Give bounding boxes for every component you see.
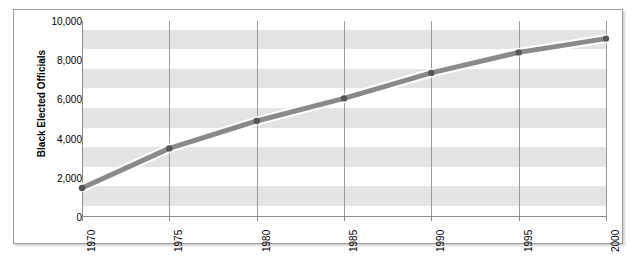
chart-frame: Black Elected Officials 10,0008,0006,000…	[13, 9, 623, 244]
line-series	[82, 21, 606, 217]
x-axis-tick-mark	[431, 217, 432, 221]
data-point-marker	[603, 35, 609, 41]
y-axis-tick-label: 0	[28, 212, 82, 223]
line-halo	[82, 39, 606, 188]
x-axis-tick-mark	[169, 217, 170, 221]
x-axis-tick-label: 1975	[173, 230, 184, 252]
x-axis-tick-mark	[82, 217, 83, 221]
vertical-gridline	[606, 21, 607, 217]
y-axis-tick-label: 8,000	[28, 55, 82, 66]
data-point-marker	[166, 145, 172, 151]
data-point-marker	[516, 49, 522, 55]
y-axis-tick-label: 6,000	[28, 94, 82, 105]
x-axis-tick-label: 1980	[261, 230, 272, 252]
plot-area	[82, 21, 606, 217]
line-path	[82, 39, 606, 188]
chart-figure: Black Elected Officials 10,0008,0006,000…	[0, 0, 636, 257]
x-axis-tick-labels: 1970197519801985199019952000	[82, 222, 606, 256]
x-axis-tick-label: 1970	[86, 230, 97, 252]
x-axis-tick-label: 1995	[523, 230, 534, 252]
y-axis-tick-labels: 10,0008,0006,0004,0002,0000	[28, 10, 82, 245]
x-axis-tick-mark	[519, 217, 520, 221]
x-axis-tick-label: 1985	[348, 230, 359, 252]
y-axis-tick-label: 2,000	[28, 172, 82, 183]
y-axis-tick-label: 4,000	[28, 133, 82, 144]
x-axis-tick-mark	[257, 217, 258, 221]
x-axis-tick-mark	[606, 217, 607, 221]
data-point-marker	[341, 95, 347, 101]
data-point-marker	[428, 70, 434, 76]
x-axis-tick-mark	[344, 217, 345, 221]
x-axis-tick-label: 1990	[435, 230, 446, 252]
data-point-marker	[79, 185, 85, 191]
x-axis-tick-label: 2000	[610, 230, 621, 252]
data-point-marker	[254, 118, 260, 124]
y-axis-tick-label: 10,000	[28, 16, 82, 27]
